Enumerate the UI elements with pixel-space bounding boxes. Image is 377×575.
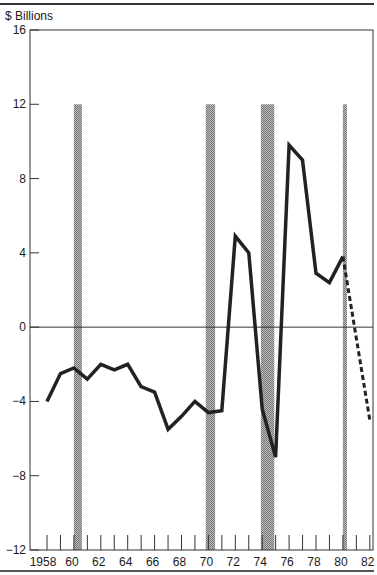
y-tick-label: 12 <box>13 97 27 111</box>
series-actual-line <box>47 145 343 457</box>
y-tick-label: −12 <box>6 543 27 557</box>
x-tick-label: 80 <box>334 555 348 569</box>
x-tick-label: 76 <box>280 555 294 569</box>
x-tick-label: 74 <box>254 555 268 569</box>
x-tick-label: 72 <box>227 555 241 569</box>
x-tick-label: 82 <box>361 555 375 569</box>
x-tick-label: 1958 <box>30 555 57 569</box>
line-chart: 1612840−4−8−12 1958606264666870727476788… <box>0 0 377 575</box>
y-tick-label: 8 <box>19 172 26 186</box>
bottom-rule <box>0 570 374 572</box>
y-tick-label: −8 <box>12 469 26 483</box>
y-tick-label: 16 <box>13 23 27 37</box>
x-tick-label: 64 <box>119 555 133 569</box>
x-tick-label: 78 <box>307 555 321 569</box>
y-tick-label: 0 <box>19 320 26 334</box>
x-tick-label: 68 <box>173 555 187 569</box>
y-axis: 1612840−4−8−12 <box>6 23 39 557</box>
y-tick-label: 4 <box>19 246 26 260</box>
x-tick-label: 70 <box>200 555 214 569</box>
y-tick-label: −4 <box>12 394 26 408</box>
x-tick-label: 62 <box>92 555 106 569</box>
x-tick-label: 66 <box>146 555 160 569</box>
x-tick-label: 60 <box>65 555 79 569</box>
